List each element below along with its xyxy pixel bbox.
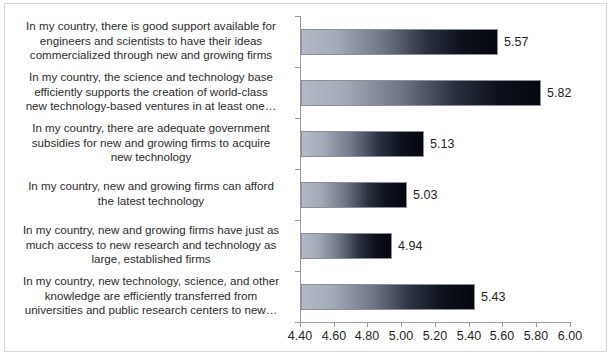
y-tick-mark xyxy=(295,67,300,68)
category-label: In my country, the science and technolog… xyxy=(8,70,294,114)
x-tick-mark xyxy=(334,322,335,327)
category-label: In my country, there is good support ava… xyxy=(8,19,294,63)
bar-value-label: 4.94 xyxy=(398,239,422,253)
y-tick-mark xyxy=(295,169,300,170)
category-label: In my country, new and growing firms can… xyxy=(8,179,294,208)
category-label: In my country, new technology, science, … xyxy=(8,274,294,318)
y-tick-mark xyxy=(295,220,300,221)
x-tick-mark xyxy=(469,322,470,327)
bar-value-label: 5.43 xyxy=(481,290,505,304)
bar xyxy=(301,233,392,259)
category-axis-line xyxy=(300,16,301,323)
x-tick-mark xyxy=(401,322,402,327)
category-label: In my country, there are adequate govern… xyxy=(8,121,294,165)
bar-value-label: 5.82 xyxy=(547,86,571,100)
x-tick-label: 6.00 xyxy=(548,329,592,343)
bar-value-label: 5.03 xyxy=(413,188,437,202)
x-tick-mark xyxy=(570,322,571,327)
x-tick-mark xyxy=(536,322,537,327)
bar xyxy=(301,29,498,55)
x-tick-mark xyxy=(300,322,301,327)
bar xyxy=(301,80,541,106)
bar xyxy=(301,182,407,208)
x-tick-mark xyxy=(502,322,503,327)
bar-chart: 4.404.604.805.005.205.405.605.806.00 5.5… xyxy=(0,0,612,357)
x-tick-mark xyxy=(367,322,368,327)
bar-value-label: 5.57 xyxy=(504,35,528,49)
y-tick-mark xyxy=(295,271,300,272)
x-tick-mark xyxy=(435,322,436,327)
bar xyxy=(301,284,475,310)
bar-value-label: 5.13 xyxy=(430,137,454,151)
y-tick-mark xyxy=(295,16,300,17)
category-label: In my country, new and growing firms hav… xyxy=(8,223,294,267)
y-tick-mark xyxy=(295,118,300,119)
bar xyxy=(301,131,424,157)
